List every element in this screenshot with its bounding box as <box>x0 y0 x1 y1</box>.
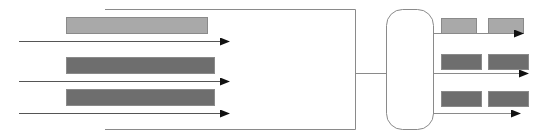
output-bar-1-1 <box>442 19 477 34</box>
flow-diagram <box>0 0 547 137</box>
left-input-group <box>19 18 229 114</box>
hub-rounded-box <box>387 10 434 130</box>
hub-node <box>387 10 434 130</box>
input-bar-1 <box>67 18 208 34</box>
diagram-canvas <box>0 0 547 137</box>
output-bar-2-1 <box>442 55 482 70</box>
output-bar-3-2 <box>489 92 529 107</box>
right-output-group <box>433 19 529 114</box>
input-bar-2 <box>67 58 215 74</box>
output-bar-3-1 <box>442 92 482 107</box>
input-bar-3 <box>67 90 215 106</box>
output-bar-2-2 <box>489 55 529 70</box>
output-bar-1-2 <box>489 19 524 34</box>
